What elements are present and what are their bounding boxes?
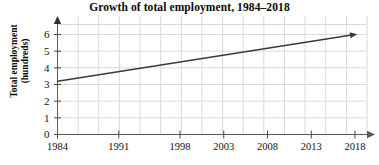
y-axis-arrow-icon xyxy=(54,16,61,24)
data-line xyxy=(58,32,357,81)
data-line-arrow-icon xyxy=(350,32,357,38)
y-tick-label: 4 xyxy=(44,62,50,74)
x-tick-label: 2008 xyxy=(257,141,278,152)
grid-vertical xyxy=(78,16,367,135)
grid-horizontal xyxy=(58,25,368,118)
x-tick-label: 1991 xyxy=(108,141,129,152)
x-axis-tick-labels: 1984199119982003200820132018 xyxy=(47,141,366,152)
y-tick-label: 5 xyxy=(44,45,50,57)
y-tick-label: 6 xyxy=(44,28,50,40)
y-tick-label: 2 xyxy=(44,95,50,107)
x-tick-label: 2013 xyxy=(301,141,322,152)
x-tick-label: 2003 xyxy=(213,141,234,152)
plot-area: 0123456 1984199119982003200820132018 xyxy=(0,0,379,165)
y-tick-label: 1 xyxy=(44,112,50,124)
chart-figure: Growth of total employment, 1984–2018 To… xyxy=(0,0,379,165)
x-tick-label: 1984 xyxy=(47,141,69,152)
y-axis-tick-labels: 0123456 xyxy=(44,28,50,140)
x-tick-label: 1998 xyxy=(170,141,191,152)
x-tick-label: 2018 xyxy=(345,141,366,152)
data-series-group xyxy=(58,32,357,81)
y-tick-label: 0 xyxy=(44,128,50,140)
y-tick-label: 3 xyxy=(44,78,50,90)
x-axis-arrow-icon xyxy=(367,131,375,138)
